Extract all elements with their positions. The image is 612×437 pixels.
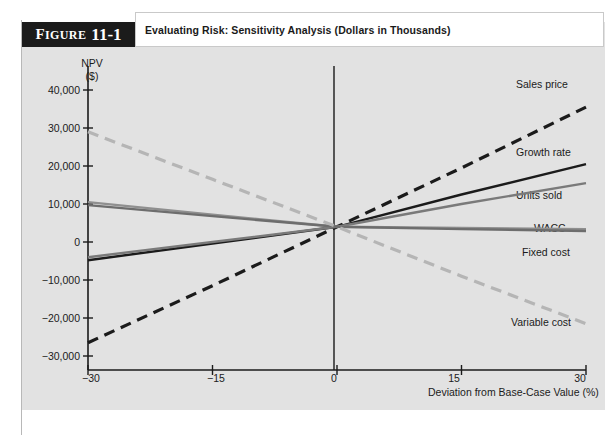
chart-svg — [0, 0, 612, 437]
chart-plot-area: NPV ($) 40,000 30,000 20,000 10,000 0 −1… — [0, 0, 612, 437]
series-paths — [88, 107, 586, 343]
series-line-sales-price — [88, 107, 586, 343]
series-line-units-sold — [88, 183, 586, 257]
